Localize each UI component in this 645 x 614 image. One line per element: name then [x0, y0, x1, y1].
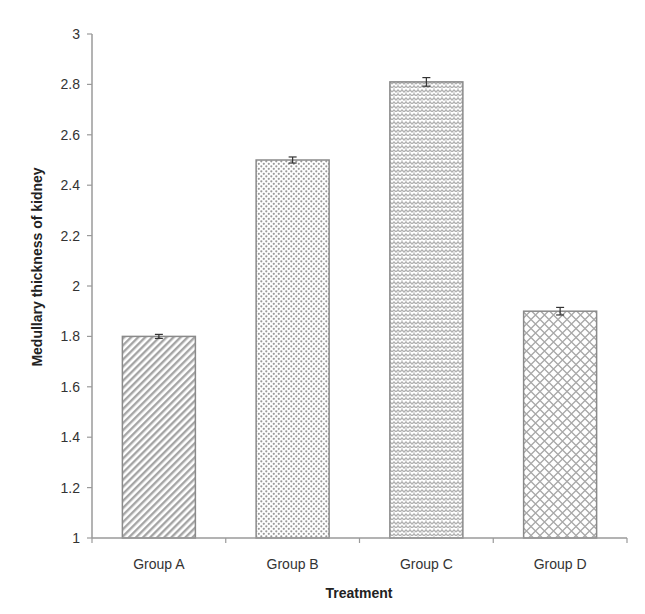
bar-group-c [390, 82, 463, 538]
bar-group-b [256, 160, 329, 538]
y-tick-label: 2.4 [61, 177, 81, 193]
y-tick-label: 2.6 [61, 127, 81, 143]
x-tick-label: Group C [400, 556, 453, 572]
x-axis: Group AGroup BGroup CGroup D [92, 538, 627, 572]
y-tick-label: 1.2 [61, 480, 81, 496]
bar-chart: 11.21.41.61.822.22.42.62.83 Group AGroup… [0, 0, 645, 614]
y-tick-label: 1.8 [61, 328, 81, 344]
y-tick-label: 2.2 [61, 228, 81, 244]
bar-group-a [122, 336, 195, 538]
y-tick-label: 1 [72, 530, 80, 546]
x-axis-title: Treatment [326, 585, 393, 601]
x-tick-label: Group B [267, 556, 319, 572]
y-axis: 11.21.41.61.822.22.42.62.83 [61, 26, 92, 546]
bars [122, 78, 596, 538]
x-tick-label: Group A [133, 556, 185, 572]
y-tick-label: 1.6 [61, 379, 81, 395]
y-tick-label: 3 [72, 26, 80, 42]
y-tick-label: 1.4 [61, 429, 81, 445]
y-tick-label: 2 [72, 278, 80, 294]
x-tick-label: Group D [534, 556, 587, 572]
y-tick-label: 2.8 [61, 76, 81, 92]
y-axis-title: Medullary thickness of kidney [29, 167, 45, 366]
bar-group-d [524, 311, 597, 538]
